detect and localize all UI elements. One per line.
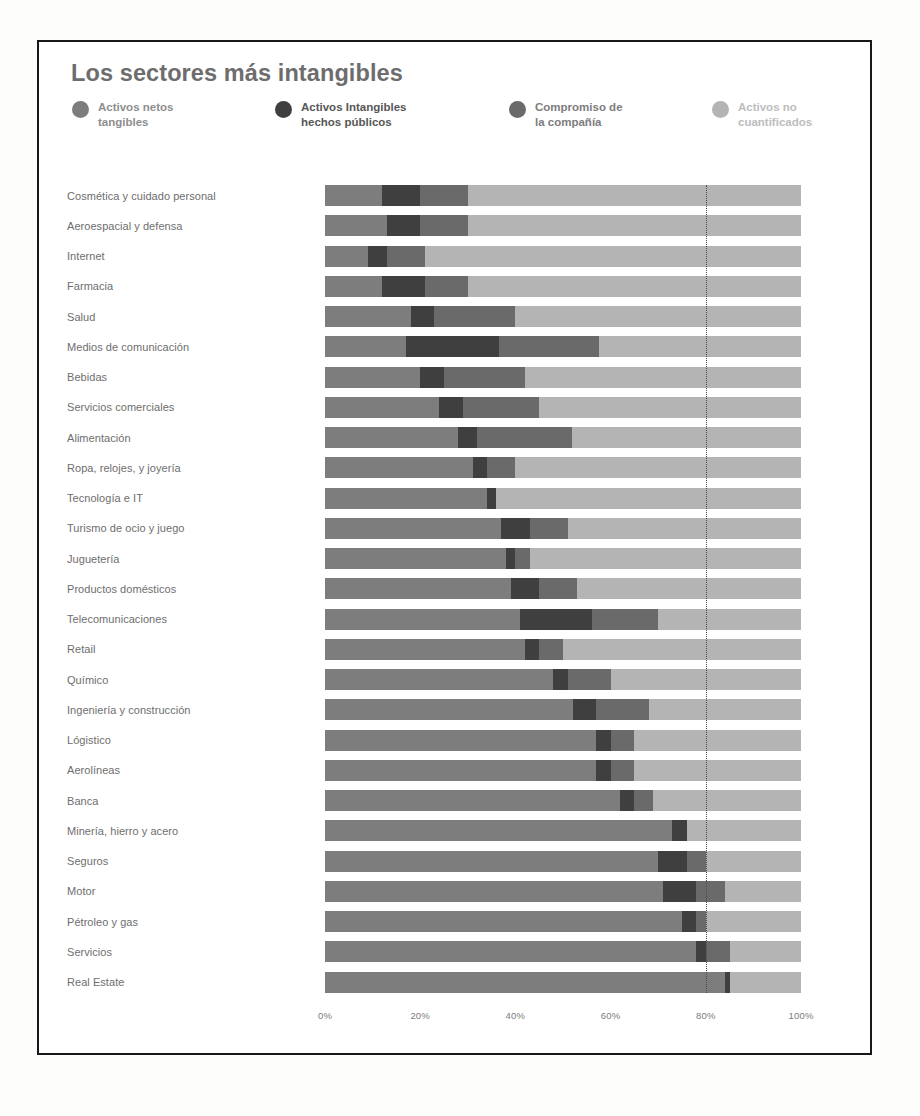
bar-segment-0[interactable] bbox=[325, 215, 387, 236]
bar-segment-0[interactable] bbox=[325, 548, 506, 569]
bar-segment-2[interactable] bbox=[539, 578, 577, 599]
bar-segment-2[interactable] bbox=[611, 760, 635, 781]
bar-segment-3[interactable] bbox=[468, 215, 801, 236]
bar-segment-3[interactable] bbox=[706, 911, 801, 932]
bar-segment-2[interactable] bbox=[696, 881, 725, 902]
bar-segment-0[interactable] bbox=[325, 669, 553, 690]
bar-segment-1[interactable] bbox=[420, 367, 444, 388]
bar-segment-0[interactable] bbox=[325, 639, 525, 660]
bar-segment-3[interactable] bbox=[634, 760, 801, 781]
stacked-bar[interactable] bbox=[325, 790, 801, 811]
bar-segment-3[interactable] bbox=[577, 578, 801, 599]
stacked-bar[interactable] bbox=[325, 609, 801, 630]
bar-segment-3[interactable] bbox=[649, 699, 801, 720]
bar-segment-1[interactable] bbox=[506, 548, 516, 569]
bar-segment-3[interactable] bbox=[725, 881, 801, 902]
bar-segment-2[interactable] bbox=[420, 185, 468, 206]
bar-segment-2[interactable] bbox=[596, 699, 648, 720]
bar-segment-1[interactable] bbox=[596, 730, 610, 751]
stacked-bar[interactable] bbox=[325, 185, 801, 206]
stacked-bar[interactable] bbox=[325, 669, 801, 690]
bar-segment-2[interactable] bbox=[530, 518, 568, 539]
bar-segment-3[interactable] bbox=[568, 518, 801, 539]
bar-segment-1[interactable] bbox=[596, 760, 610, 781]
bar-segment-1[interactable] bbox=[458, 427, 477, 448]
bar-segment-2[interactable] bbox=[477, 427, 572, 448]
bar-segment-3[interactable] bbox=[687, 820, 801, 841]
stacked-bar[interactable] bbox=[325, 367, 801, 388]
bar-segment-3[interactable] bbox=[599, 336, 801, 357]
stacked-bar[interactable] bbox=[325, 639, 801, 660]
stacked-bar[interactable] bbox=[325, 578, 801, 599]
bar-segment-3[interactable] bbox=[539, 397, 801, 418]
bar-segment-3[interactable] bbox=[572, 427, 800, 448]
bar-segment-1[interactable] bbox=[620, 790, 634, 811]
bar-segment-0[interactable] bbox=[325, 457, 473, 478]
bar-segment-1[interactable] bbox=[439, 397, 463, 418]
stacked-bar[interactable] bbox=[325, 246, 801, 267]
bar-segment-2[interactable] bbox=[611, 730, 635, 751]
bar-segment-2[interactable] bbox=[539, 639, 563, 660]
stacked-bar[interactable] bbox=[325, 699, 801, 720]
bar-segment-2[interactable] bbox=[687, 851, 706, 872]
bar-segment-0[interactable] bbox=[325, 336, 406, 357]
bar-segment-0[interactable] bbox=[325, 941, 696, 962]
bar-segment-2[interactable] bbox=[487, 457, 516, 478]
bar-segment-3[interactable] bbox=[658, 609, 801, 630]
bar-segment-3[interactable] bbox=[634, 730, 801, 751]
bar-segment-2[interactable] bbox=[434, 306, 515, 327]
bar-segment-1[interactable] bbox=[525, 639, 539, 660]
bar-segment-1[interactable] bbox=[682, 911, 696, 932]
bar-segment-1[interactable] bbox=[672, 820, 686, 841]
bar-segment-3[interactable] bbox=[530, 548, 801, 569]
bar-segment-0[interactable] bbox=[325, 972, 725, 993]
bar-segment-2[interactable] bbox=[499, 336, 599, 357]
bar-segment-0[interactable] bbox=[325, 730, 596, 751]
bar-segment-0[interactable] bbox=[325, 911, 682, 932]
bar-segment-1[interactable] bbox=[487, 488, 497, 509]
stacked-bar[interactable] bbox=[325, 215, 801, 236]
bar-segment-1[interactable] bbox=[696, 941, 706, 962]
bar-segment-0[interactable] bbox=[325, 276, 382, 297]
bar-segment-1[interactable] bbox=[473, 457, 487, 478]
bar-segment-3[interactable] bbox=[653, 790, 801, 811]
bar-segment-1[interactable] bbox=[387, 215, 420, 236]
bar-segment-1[interactable] bbox=[658, 851, 687, 872]
bar-segment-2[interactable] bbox=[568, 669, 611, 690]
bar-segment-0[interactable] bbox=[325, 760, 596, 781]
bar-segment-2[interactable] bbox=[592, 609, 659, 630]
bar-segment-0[interactable] bbox=[325, 185, 382, 206]
bar-segment-1[interactable] bbox=[382, 185, 420, 206]
bar-segment-2[interactable] bbox=[463, 397, 539, 418]
stacked-bar[interactable] bbox=[325, 730, 801, 751]
bar-segment-1[interactable] bbox=[553, 669, 567, 690]
bar-segment-0[interactable] bbox=[325, 881, 663, 902]
bar-segment-2[interactable] bbox=[425, 276, 468, 297]
bar-segment-2[interactable] bbox=[634, 790, 653, 811]
bar-segment-3[interactable] bbox=[563, 639, 801, 660]
stacked-bar[interactable] bbox=[325, 518, 801, 539]
stacked-bar[interactable] bbox=[325, 941, 801, 962]
stacked-bar[interactable] bbox=[325, 881, 801, 902]
stacked-bar[interactable] bbox=[325, 851, 801, 872]
bar-segment-2[interactable] bbox=[706, 941, 730, 962]
bar-segment-0[interactable] bbox=[325, 306, 411, 327]
stacked-bar[interactable] bbox=[325, 488, 801, 509]
bar-segment-1[interactable] bbox=[382, 276, 425, 297]
bar-segment-0[interactable] bbox=[325, 699, 573, 720]
stacked-bar[interactable] bbox=[325, 911, 801, 932]
bar-segment-0[interactable] bbox=[325, 367, 420, 388]
bar-segment-0[interactable] bbox=[325, 820, 672, 841]
bar-segment-3[interactable] bbox=[468, 276, 801, 297]
bar-segment-0[interactable] bbox=[325, 790, 620, 811]
bar-segment-1[interactable] bbox=[501, 518, 530, 539]
bar-segment-2[interactable] bbox=[515, 548, 529, 569]
bar-segment-1[interactable] bbox=[368, 246, 387, 267]
stacked-bar[interactable] bbox=[325, 820, 801, 841]
bar-segment-3[interactable] bbox=[468, 185, 801, 206]
bar-segment-0[interactable] bbox=[325, 518, 501, 539]
stacked-bar[interactable] bbox=[325, 760, 801, 781]
stacked-bar[interactable] bbox=[325, 972, 801, 993]
bar-segment-0[interactable] bbox=[325, 609, 520, 630]
bar-segment-1[interactable] bbox=[411, 306, 435, 327]
